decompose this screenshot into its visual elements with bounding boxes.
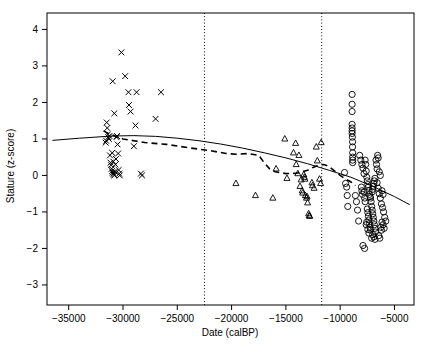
y-tick-label: 1 [32,133,38,144]
scatter-plot-figure: −35000−30000−25000−20000−15000−10000−500… [0,0,426,353]
y-tick-label: −1 [27,206,39,217]
y-tick-label: 2 [32,97,38,108]
y-tick-label: −2 [27,243,39,254]
y-tick-label: 3 [32,60,38,71]
x-tick-label: −5000 [380,313,409,324]
x-tick-label: −20000 [215,313,249,324]
y-axis-title: Stature (z-score) [5,129,16,203]
y-tick-label: −3 [27,279,39,290]
x-tick-label: −15000 [269,313,303,324]
x-tick-label: −25000 [160,313,194,324]
x-tick-label: −35000 [52,313,86,324]
x-tick-label: −10000 [323,313,357,324]
y-tick-label: 4 [32,24,38,35]
x-axis-title: Date (calBP) [202,327,259,338]
x-tick-label: −30000 [106,313,140,324]
y-tick-label: 0 [32,170,38,181]
chart-canvas: −35000−30000−25000−20000−15000−10000−500… [0,0,426,353]
